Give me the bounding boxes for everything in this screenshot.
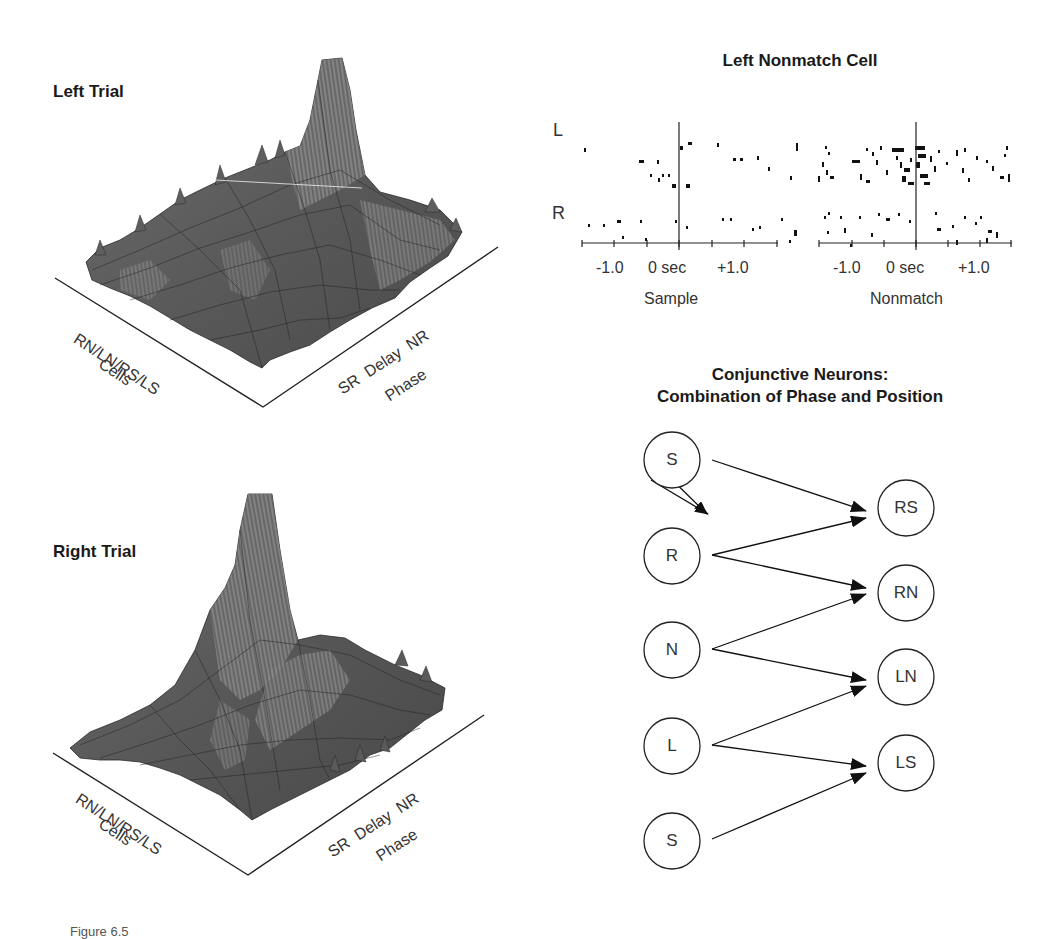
figure-caption: Figure 6.5 (70, 924, 129, 939)
nonmatch-tick-zero: 0 sec (886, 259, 924, 277)
diagram-title-line2: Combination of Phase and Position (600, 386, 1000, 408)
edge-s1-rs (651, 480, 708, 514)
node-label-ls: LS (886, 753, 926, 773)
sample-xlabel: Sample (644, 290, 698, 308)
nonmatch-tick-minus1: -1.0 (833, 259, 861, 277)
node-label-r: R (652, 546, 692, 566)
raster-plot (560, 90, 1030, 250)
sample-tick-minus1: -1.0 (596, 259, 624, 277)
node-label-s-top: S (652, 450, 692, 470)
node-label-n: N (652, 640, 692, 660)
raster-title: Left Nonmatch Cell (640, 50, 960, 72)
left-trial-surface-plot (0, 0, 540, 420)
node-label-rn: RN (886, 583, 926, 603)
nonmatch-tick-plus1: +1.0 (958, 259, 990, 277)
sample-tick-plus1: +1.0 (717, 259, 749, 277)
nonmatch-xlabel: Nonmatch (870, 290, 943, 308)
node-label-rs: RS (886, 498, 926, 518)
node-label-s-bottom: S (652, 831, 692, 851)
node-label-ln: LN (886, 667, 926, 687)
right-trial-surface-plot (0, 470, 540, 890)
sample-tick-zero: 0 sec (648, 259, 686, 277)
raster-x-axes (560, 240, 1030, 254)
diagram-title-line1: Conjunctive Neurons: (600, 364, 1000, 386)
node-label-l: L (652, 736, 692, 756)
